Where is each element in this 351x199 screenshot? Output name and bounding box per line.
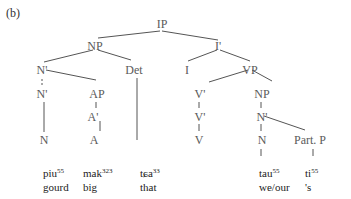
node-ip: IP (157, 18, 168, 30)
node-np-obj: NP (254, 88, 269, 100)
figure-label: (b) (6, 7, 20, 19)
node-ap: AP (89, 88, 104, 100)
node-np: NP (87, 40, 102, 52)
node-n-2: N (258, 134, 267, 146)
node-det: Det (125, 64, 142, 76)
node-vp: VP (242, 64, 257, 76)
gloss-3: we/our (259, 181, 290, 193)
node-a: A (90, 134, 99, 146)
node-ibar: I' (215, 40, 221, 52)
word-1: mak323 (83, 167, 112, 179)
word-2: tɕa33 (140, 167, 160, 179)
node-n-1: N (40, 134, 49, 146)
gloss-1: big (83, 181, 97, 193)
node-vbar-1: V' (195, 88, 206, 100)
node-nbar-2: N' (37, 88, 48, 100)
gloss-4: 's (305, 181, 311, 193)
node-i: I (185, 64, 189, 76)
word-4: ti55 (305, 167, 318, 179)
node-v: V (195, 134, 204, 146)
node-vbar-2: V' (195, 111, 206, 123)
node-partp: Part. P (294, 134, 326, 146)
node-nbar-1: N' (37, 64, 48, 76)
word-0: piu55 (43, 167, 64, 179)
gloss-2: that (140, 181, 157, 193)
node-abar: A' (88, 111, 99, 123)
node-nbar-obj: N' (257, 111, 268, 123)
word-3: tau55 (259, 167, 279, 179)
gloss-0: gourd (43, 181, 69, 193)
